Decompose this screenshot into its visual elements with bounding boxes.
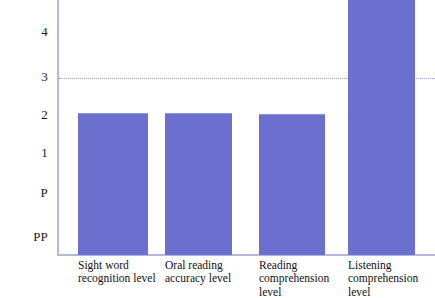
bar-oral-reading-accuracy-level bbox=[165, 113, 232, 255]
y-axis-tick-2: 2 bbox=[0, 108, 48, 121]
bar-chart: 4 3 2 1 P PP Sight word recognition leve… bbox=[0, 0, 435, 298]
y-axis-tick-1: 1 bbox=[0, 146, 48, 159]
x-axis-label-oral-reading-accuracy-level: Oral reading accuracy level bbox=[165, 259, 251, 286]
x-axis-label-reading-comprehension-level: Reading comprehension level bbox=[259, 259, 345, 298]
x-axis-label-sight-word-recognition-level: Sight word recognition level bbox=[78, 259, 164, 286]
y-axis-tick-4: 4 bbox=[0, 25, 48, 38]
bar-sight-word-recognition-level bbox=[78, 113, 148, 255]
bar-listening-comprehension-level bbox=[348, 0, 415, 255]
y-axis-tick-p: P bbox=[0, 186, 48, 199]
y-axis-tick-pp: PP bbox=[0, 230, 48, 243]
y-axis-line bbox=[57, 0, 59, 256]
x-axis-label-listening-comprehension-level: Listening comprehension level bbox=[348, 259, 434, 298]
bar-reading-comprehension-level bbox=[259, 114, 325, 255]
y-axis-tick-3: 3 bbox=[0, 70, 48, 83]
